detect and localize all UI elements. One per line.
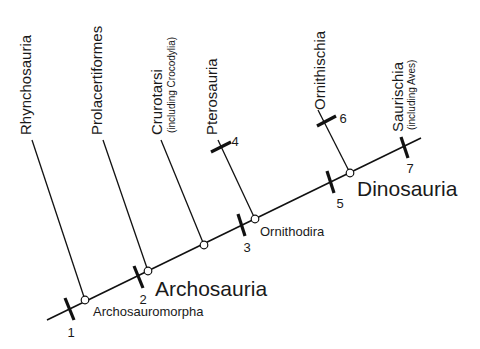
branch-rhynchosauria	[32, 140, 85, 300]
taxon-label-crurotarsi: Crurotarsi	[148, 69, 165, 135]
character-number-4: 4	[231, 134, 238, 149]
taxon-label-pterosauria: Pterosauria	[203, 58, 220, 135]
branch-prolacertiformes	[103, 140, 148, 271]
taxon-label-saurischia: Saurischia	[389, 61, 406, 132]
node-label-dinosauria: Dinosauria	[357, 177, 458, 200]
character-tick-6	[317, 116, 336, 126]
taxon-note-crurotarsi: (including Crocodylia)	[166, 37, 177, 133]
node-label-ornithodira: Ornithodira	[260, 224, 325, 239]
branch-pterosauria	[218, 140, 255, 219]
node-archosauria-circle	[144, 267, 152, 275]
node-crurotarsi-circle	[200, 241, 208, 249]
character-tick-5	[327, 171, 334, 193]
character-number-5: 5	[336, 196, 343, 211]
character-number-6: 6	[339, 111, 346, 126]
node-label-archosauromorpha: Archosauromorpha	[93, 304, 204, 319]
character-tick-4	[211, 142, 231, 152]
node-ornithodira-circle	[251, 215, 259, 223]
taxon-note-saurischia: (including Aves)	[406, 60, 417, 130]
character-number-7: 7	[406, 161, 413, 176]
character-number-1: 1	[67, 325, 74, 340]
node-archosauromorpha-circle	[81, 296, 89, 304]
taxon-label-ornithischia: Ornithischia	[311, 30, 328, 110]
node-label-archosauria: Archosauria	[155, 277, 267, 300]
branch-crurotarsi	[161, 140, 204, 245]
node-dinosauria-circle	[346, 169, 354, 177]
character-tick-1	[65, 298, 74, 320]
taxon-label-prolacertiformes: Prolacertiformes	[88, 26, 105, 135]
character-number-3: 3	[243, 240, 250, 255]
taxon-label-rhynchosauria: Rhynchosauria	[17, 34, 34, 135]
cladogram: 1 2 3 4 5 6 7 Archosauromorpha Archosaur…	[0, 0, 480, 349]
